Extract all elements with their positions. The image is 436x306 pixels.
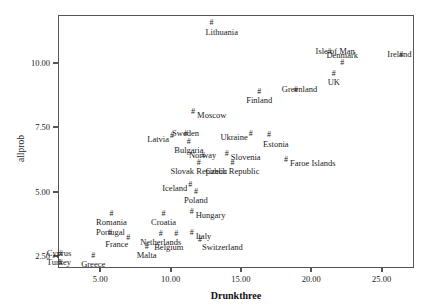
point-label: Norway <box>189 151 216 160</box>
y-axis-tick <box>53 126 58 128</box>
scatter-plot-figure: 5.0010.0015.0020.0025.002.505.007.5010.0… <box>0 0 436 306</box>
point-marker-icon: # <box>248 129 254 139</box>
point-marker-icon: # <box>190 107 196 117</box>
x-axis-tick <box>381 268 383 272</box>
x-axis-tick <box>170 268 172 272</box>
point-label: Romania <box>96 218 127 227</box>
point-label: Lithuania <box>205 28 238 37</box>
point-label: Estonia <box>263 140 289 149</box>
point-label: Moscow <box>197 111 226 120</box>
point-label: Portugal <box>96 228 125 237</box>
point-label: Greenland <box>282 85 317 94</box>
x-axis-title: Drunkthree <box>8 290 436 301</box>
x-axis-tick-label: 20.00 <box>286 274 336 284</box>
y-axis-tick-label: 7.50 <box>6 122 50 132</box>
x-axis-tick <box>310 268 312 272</box>
point-label: Poland <box>184 196 208 205</box>
y-axis-title: allprob <box>16 135 26 162</box>
point-label: Denmark <box>326 51 358 60</box>
x-axis-tick-label: 5.00 <box>75 274 125 284</box>
plot-layer: 5.0010.0015.0020.0025.002.505.007.5010.0… <box>0 0 436 306</box>
y-axis-tick <box>53 62 58 64</box>
point-label: Switzerland <box>202 243 243 252</box>
point-marker-icon: # <box>189 207 195 217</box>
y-axis-tick-label: 2.50 <box>6 251 50 261</box>
point-marker-icon: # <box>169 131 175 141</box>
point-label: Finland <box>246 96 272 105</box>
x-axis-tick-label: 10.00 <box>146 274 196 284</box>
point-label: Ukraine <box>220 133 247 142</box>
point-label: Iceland <box>162 184 187 193</box>
point-label: UK <box>328 78 340 87</box>
point-label: Greece <box>81 260 105 269</box>
point-label: Malta <box>137 251 157 260</box>
point-marker-icon: # <box>189 228 195 238</box>
point-label: France <box>105 240 128 249</box>
x-axis-tick-label: 25.00 <box>357 274 407 284</box>
point-label: Faroe Islands <box>290 159 336 168</box>
point-marker-icon: # <box>283 155 289 165</box>
point-label: Belgium <box>154 243 183 252</box>
y-axis-tick <box>53 191 58 193</box>
point-label: Croatia <box>151 218 176 227</box>
point-label: Hungary <box>196 211 226 220</box>
point-label: Turkey <box>47 258 71 267</box>
point-marker-icon: # <box>173 229 179 239</box>
point-label: Ireland <box>387 50 411 59</box>
x-axis-tick-label: 15.00 <box>216 274 266 284</box>
x-axis-tick <box>240 268 242 272</box>
point-label: Czech Republic <box>205 167 259 176</box>
y-axis-tick-label: 5.00 <box>6 187 50 197</box>
y-axis-tick-label: 10.00 <box>6 58 50 68</box>
point-label: Latvia <box>147 135 169 144</box>
